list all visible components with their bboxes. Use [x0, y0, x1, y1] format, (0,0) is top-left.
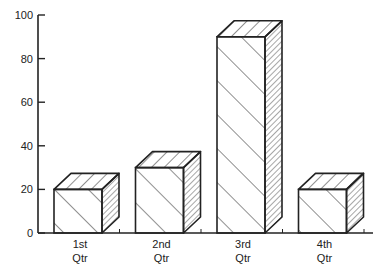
bar-front: [54, 189, 102, 233]
x-category-label: Qtr: [154, 252, 170, 264]
x-category-label: Qtr: [235, 252, 251, 264]
x-category-label: 2nd: [152, 238, 170, 250]
x-category-label: Qtr: [72, 252, 88, 264]
y-tick-label: 100: [15, 9, 33, 21]
bar-front: [217, 37, 265, 233]
y-tick-label: 0: [27, 227, 33, 239]
labels: 1stQtr2ndQtr3rdQtr4thQtr: [72, 238, 332, 264]
x-category-label: 4th: [317, 238, 332, 250]
bar: [54, 173, 119, 233]
x-category-label: 1st: [73, 238, 88, 250]
bar-front: [299, 189, 347, 233]
bar-side: [265, 21, 282, 233]
y-tick-label: 80: [21, 53, 33, 65]
bar: [136, 152, 201, 233]
bar-chart: 020406080100 1stQtr2ndQtr3rdQtr4thQtr: [0, 0, 377, 278]
x-category-label: 3rd: [235, 238, 251, 250]
bar: [217, 21, 282, 233]
y-tick-label: 20: [21, 183, 33, 195]
bars: [54, 21, 364, 233]
y-tick-label: 40: [21, 140, 33, 152]
bar: [299, 173, 364, 233]
bar-front: [136, 168, 184, 233]
y-tick-label: 60: [21, 96, 33, 108]
x-category-label: Qtr: [317, 252, 333, 264]
